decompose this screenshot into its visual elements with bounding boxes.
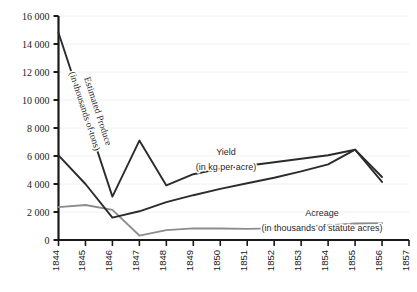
y-axis-tick-label: 6 000 (27, 151, 50, 162)
annotation-yield-unit: (in kg per acre) (196, 162, 257, 172)
y-axis-tick-labels: 02 0004 0006 0008 00010 00012 00014 0001… (22, 11, 50, 246)
y-axis-tick-label: 8 000 (27, 123, 50, 134)
y-axis-tick-label: 12 000 (22, 67, 50, 78)
annotation-acreage-unit: (in thousands of statute acres) (261, 223, 382, 233)
x-axis-tick-label: 1845 (76, 250, 87, 271)
x-axis-tick-label: 1849 (184, 250, 195, 271)
annotation-acreage-title: Acreage (305, 208, 339, 218)
y-axis-tick-label: 4 000 (27, 179, 50, 190)
x-axis-tick-label: 1855 (346, 250, 357, 271)
x-axis-tick-label: 1844 (50, 250, 61, 271)
y-axis-tick-label: 10 000 (22, 95, 50, 106)
x-axis-tick-label: 1853 (292, 250, 303, 271)
x-axis-tick-label: 1850 (211, 250, 222, 271)
y-axis-tick-label: 2 000 (27, 207, 50, 218)
annotation-yield-title: Yield (216, 147, 236, 157)
x-axis-tick-label: 1851 (238, 250, 249, 271)
x-axis-tick-label: 1852 (265, 250, 276, 271)
y-axis-tick-label: 0 (45, 235, 50, 246)
x-axis-tick-label: 1856 (373, 250, 384, 271)
x-axis-tick-label: 1846 (103, 250, 114, 271)
y-axis-tick-label: 14 000 (22, 39, 50, 50)
y-axis-tick-label: 16 000 (22, 11, 50, 22)
x-axis-tick-label: 1854 (319, 250, 330, 271)
x-axis-tick-label: 1847 (130, 250, 141, 271)
x-axis-tick-label: 1848 (157, 250, 168, 271)
line-chart: 02 0004 0006 0008 00010 00012 00014 0001… (0, 0, 417, 292)
x-axis-tick-label: 1857 (400, 250, 411, 271)
chart-container: 02 0004 0006 0008 00010 00012 00014 0001… (0, 0, 417, 292)
